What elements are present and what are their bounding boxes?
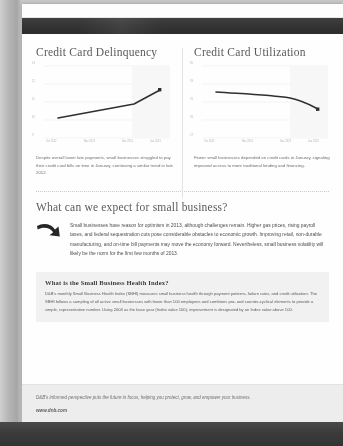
expect-section-body: Small businesses have reason for optimis…: [36, 221, 329, 259]
document-content: Credit Card Delinquency 13 12 11 10 9: [22, 34, 343, 429]
y-tick-label: 35: [190, 62, 193, 65]
footer-tagline: D&B's informed perspective puts the futu…: [36, 394, 343, 402]
chart-caption-utilization: Fewer small businesses depended on credi…: [194, 154, 332, 169]
chart-caption-delinquency: Despite overall lower late payments, sma…: [36, 154, 174, 177]
x-tick-label: Jan 2013: [150, 140, 161, 143]
x-tick-label: Dec 2012: [122, 140, 133, 143]
curved-arrow-icon: [36, 221, 70, 259]
x-tick-label: Oct 2012: [46, 140, 57, 143]
y-tick-label: 12: [32, 80, 35, 83]
y-tick-label: 27: [190, 134, 193, 137]
x-tick-label: Oct 2012: [204, 140, 215, 143]
y-tick-label: 9: [32, 134, 34, 137]
chart-title-utilization: Credit Card Utilization: [194, 46, 335, 58]
y-tick-label: 11: [32, 98, 35, 101]
y-tick-label: 31: [190, 98, 193, 101]
sheet-top-margin: [22, 4, 343, 18]
expect-section-text: Small businesses have reason for optimis…: [70, 221, 329, 259]
index-definition-text: D&B's monthly Small Business Health Inde…: [45, 290, 320, 314]
page-gutter: [0, 0, 22, 446]
x-tick-label: Jan 2013: [308, 140, 319, 143]
header-banner: [22, 18, 343, 34]
banner-sheen: [80, 18, 163, 34]
report-page: Credit Card Delinquency 13 12 11 10 9: [0, 0, 343, 446]
index-definition-panel: What is the Small Business Health Index?…: [36, 272, 329, 322]
chart-plot-utilization: 35 33 31 29 27: [190, 64, 332, 144]
y-tick-label: 33: [190, 80, 193, 83]
chart-plot-delinquency: 13 12 11 10 9: [32, 64, 174, 144]
x-tick-label: Nov 2012: [84, 140, 95, 143]
y-tick-label: 10: [32, 116, 35, 119]
chart-svg-utilization: [190, 64, 332, 144]
expect-section-heading: What can we expect for small business?: [36, 201, 343, 213]
charts-row: Credit Card Delinquency 13 12 11 10 9: [22, 34, 343, 177]
chart-panel-delinquency: Credit Card Delinquency 13 12 11 10 9: [30, 46, 177, 177]
chart-title-delinquency: Credit Card Delinquency: [36, 46, 177, 58]
footer-url[interactable]: www.dnb.com: [36, 408, 343, 413]
chart-panel-utilization: Credit Card Utilization 35 33 31 29 27: [177, 46, 335, 177]
y-tick-label: 29: [190, 116, 193, 119]
x-tick-label: Dec 2012: [280, 140, 291, 143]
y-tick-label: 13: [32, 62, 35, 65]
document-sheet: Credit Card Delinquency 13 12 11 10 9: [22, 4, 343, 429]
x-tick-label: Nov 2012: [242, 140, 253, 143]
chart-svg-delinquency: [32, 64, 174, 144]
index-definition-heading: What is the Small Business Health Index?: [45, 279, 320, 286]
page-backdrop-bottom: [0, 422, 343, 446]
